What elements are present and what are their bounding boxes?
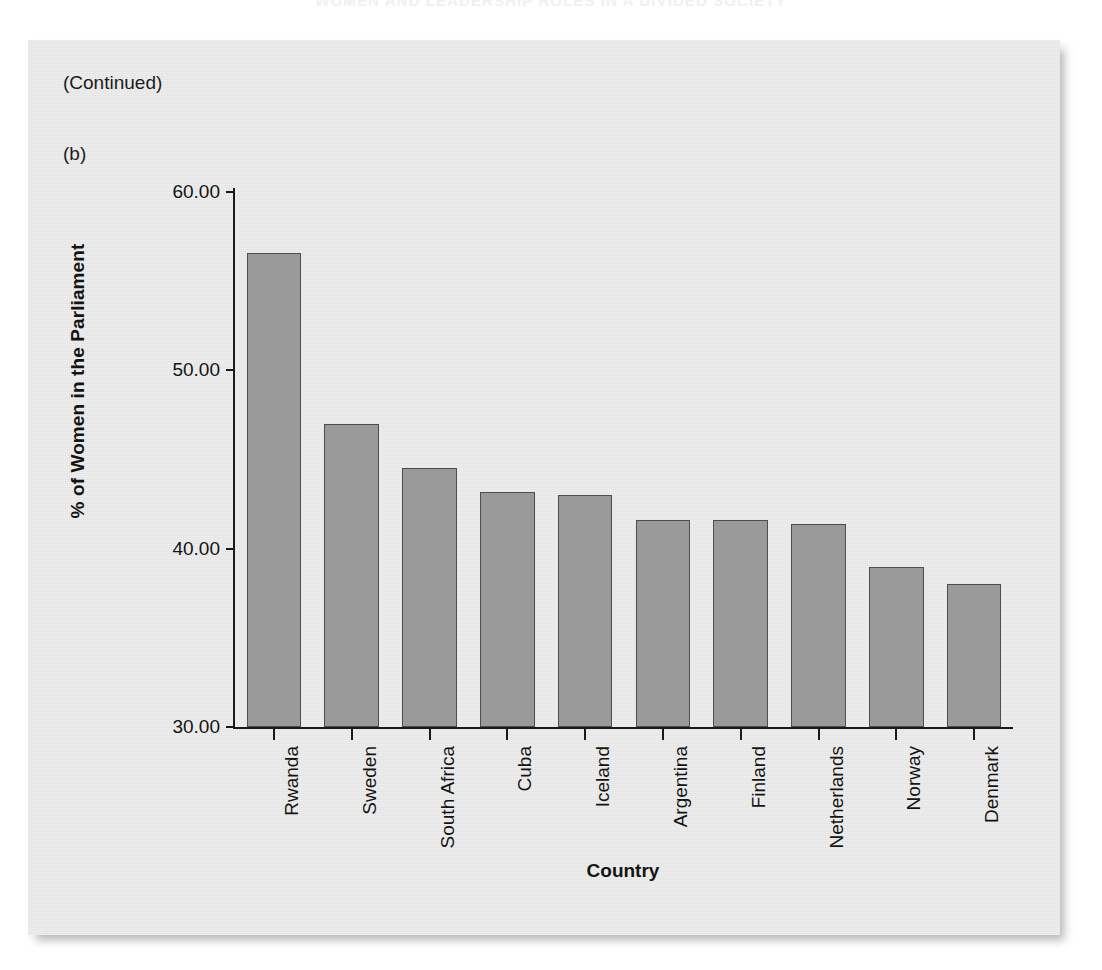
- y-axis-tick-labels: 30.0040.0050.0060.00: [80, 40, 220, 935]
- x-axis-tick-mark: [895, 729, 897, 740]
- running-header: WOMEN AND LEADERSHIP ROLES IN A DIVIDED …: [0, 0, 1102, 8]
- x-axis-tick-mark: [273, 729, 275, 740]
- bar: [324, 424, 378, 727]
- x-axis-tick-label: Denmark: [981, 746, 1003, 823]
- y-axis-tick-label: 60.00: [100, 181, 220, 203]
- x-axis-title: Country: [233, 860, 1013, 882]
- x-axis-tick-label: Iceland: [592, 746, 614, 807]
- x-axis-tick-label: Netherlands: [826, 746, 848, 848]
- bar: [636, 520, 690, 727]
- x-axis-tick-mark: [662, 729, 664, 740]
- bar: [947, 584, 1001, 727]
- bar: [713, 520, 767, 727]
- bar-chart: % of Women in the Parliament 30.0040.005…: [28, 40, 1060, 935]
- x-axis-tick-mark: [973, 729, 975, 740]
- x-axis-tick-label: Cuba: [514, 746, 536, 791]
- x-axis-tick-label: Argentina: [670, 746, 692, 827]
- y-axis-tick-mark: [226, 726, 234, 728]
- y-axis-tick-mark: [226, 369, 234, 371]
- bar: [247, 253, 301, 727]
- x-axis-tick-mark: [506, 729, 508, 740]
- y-axis-tick-label: 30.00: [100, 716, 220, 738]
- bar: [480, 492, 534, 727]
- bar: [791, 524, 845, 727]
- y-axis-tick-label: 50.00: [100, 359, 220, 381]
- x-axis-tick-mark: [351, 729, 353, 740]
- figure-card: (Continued) (b) % of Women in the Parlia…: [28, 40, 1060, 935]
- panel-label: (b): [63, 143, 86, 165]
- bar: [869, 567, 923, 728]
- x-axis-tick-mark: [740, 729, 742, 740]
- y-axis-tick-label: 40.00: [100, 538, 220, 560]
- x-axis-tick-label: Sweden: [359, 746, 381, 815]
- x-axis-tick-label: Norway: [903, 746, 925, 810]
- x-axis-tick-label: South Africa: [437, 746, 459, 848]
- plot-area: [235, 192, 1013, 727]
- y-axis-tick-mark: [226, 548, 234, 550]
- bar: [402, 468, 456, 727]
- x-axis-tick-mark: [584, 729, 586, 740]
- x-axis-tick-mark: [429, 729, 431, 740]
- bar: [558, 495, 612, 727]
- continued-label: (Continued): [63, 72, 162, 94]
- x-axis-tick-label: Finland: [748, 746, 770, 808]
- y-axis-tick-mark: [226, 191, 234, 193]
- x-axis-tick-mark: [818, 729, 820, 740]
- x-axis-tick-label: Rwanda: [281, 746, 303, 816]
